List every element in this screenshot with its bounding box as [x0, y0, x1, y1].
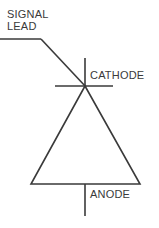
diagram-canvas: SIGNAL LEAD CATHODE ANODE — [0, 0, 159, 228]
signal-lead-label: SIGNAL LEAD — [7, 8, 49, 32]
anode-label: ANODE — [90, 188, 130, 200]
diode-triangle — [31, 86, 140, 184]
diode-schematic-svg — [0, 0, 159, 228]
signal-lead-diagonal-line — [41, 39, 86, 87]
cathode-label: CATHODE — [90, 69, 144, 81]
